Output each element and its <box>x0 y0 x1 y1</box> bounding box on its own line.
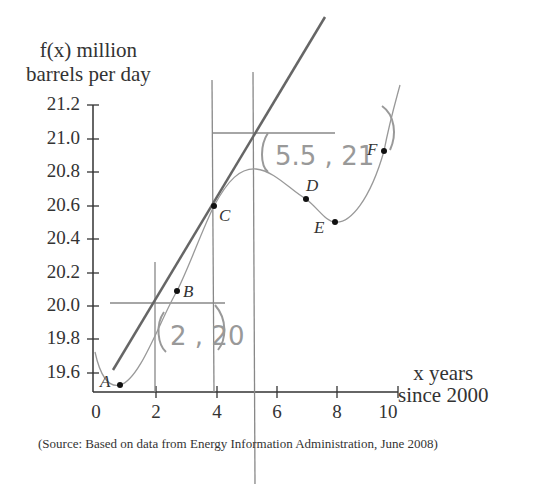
point-label-f: F <box>367 140 377 160</box>
x-tick-label: 4 <box>202 401 232 423</box>
y-tick-label: 20.0 <box>0 294 80 316</box>
handwritten-text: 2 , 20 5.5 , 21 <box>170 141 374 351</box>
y-tick-label: 20.4 <box>0 227 80 249</box>
point-label-b: B <box>183 282 193 302</box>
x-axis-label: x years since 2000 <box>398 362 488 406</box>
x-tick-label: 8 <box>322 401 352 423</box>
point-label-e: E <box>314 218 324 238</box>
function-curve <box>95 85 400 385</box>
y-tick-label: 20.6 <box>0 194 80 216</box>
y-axis-label: f(x) million barrels per day <box>26 38 151 86</box>
y-tick-label: 19.8 <box>0 327 80 349</box>
x-tick-label: 0 <box>81 401 111 423</box>
point-label-a: A <box>100 372 110 392</box>
x-axis-label-line1: x years <box>398 362 488 384</box>
x-tick-label: 2 <box>141 401 171 423</box>
y-tick-label: 20.2 <box>0 261 80 283</box>
source-caption: (Source: Based on data from Energy Infor… <box>38 436 438 452</box>
y-tick-label: 19.6 <box>0 361 80 383</box>
x-tick-label: 6 <box>262 401 292 423</box>
point-label-c: C <box>219 206 230 226</box>
y-tick-label: 21.2 <box>0 93 80 115</box>
y-axis-label-line2: barrels per day <box>26 62 151 86</box>
y-tick-label: 21.0 <box>0 127 80 149</box>
x-axis-label-line2: since 2000 <box>398 384 488 406</box>
svg-text:5.5 , 21: 5.5 , 21 <box>275 141 374 171</box>
svg-text:2 , 20: 2 , 20 <box>170 321 244 351</box>
point-label-d: D <box>306 176 318 196</box>
y-tick-label: 20.8 <box>0 160 80 182</box>
data-points <box>117 148 387 388</box>
y-axis-label-line1: f(x) million <box>26 38 151 62</box>
